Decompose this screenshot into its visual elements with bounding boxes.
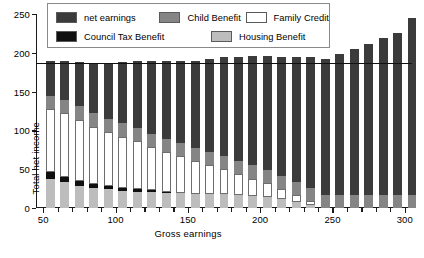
bar-segment-council-tax-benefit <box>46 172 55 179</box>
legend-item-housing-benefit: Housing Benefit <box>211 31 305 42</box>
bar-segment-family-credit <box>46 109 55 173</box>
bar-segment-family-credit <box>277 189 286 199</box>
bar-segment-net-earnings <box>162 61 171 139</box>
bar-segment-child-benefit <box>306 188 315 201</box>
bar-segment-child-benefit <box>248 165 257 178</box>
bar-segment-child-benefit <box>75 106 84 119</box>
legend-item-child-benefit: Child Benefit <box>159 12 245 23</box>
bar-segment-child-benefit <box>393 195 402 208</box>
bar-segment-net-earnings <box>191 61 200 149</box>
y-axis-title: Total net income <box>30 122 41 194</box>
x-tick-120 <box>144 208 145 212</box>
x-tick-50 <box>43 208 44 213</box>
y-tick-label-50: 50 <box>19 164 30 175</box>
x-tick-130 <box>159 208 160 212</box>
bar-200 <box>263 56 272 208</box>
bar-90 <box>104 63 113 208</box>
x-tick-300 <box>405 208 406 213</box>
bar-segment-family-credit <box>60 113 69 177</box>
bar-segment-net-earnings <box>306 57 315 187</box>
bar-120 <box>147 61 156 208</box>
bar-segment-family-credit <box>176 156 185 192</box>
bar-segment-child-benefit <box>234 161 243 174</box>
bar-segment-family-credit <box>234 174 243 195</box>
bar-segment-child-benefit <box>263 170 272 183</box>
bar-210 <box>277 57 286 208</box>
bar-50 <box>46 61 55 208</box>
y-tick-label-0: 0 <box>25 203 30 214</box>
x-tick-label-250: 250 <box>324 214 340 225</box>
x-tick-100 <box>116 208 117 213</box>
x-tick-label-100: 100 <box>107 214 123 225</box>
legend-label-housing-benefit: Housing Benefit <box>239 32 305 42</box>
bar-segment-net-earnings <box>379 38 388 195</box>
bar-segment-net-earnings <box>263 56 272 170</box>
bar-segment-housing-benefit <box>306 205 315 208</box>
bar-segment-housing-benefit <box>133 192 142 208</box>
bar-segment-family-credit <box>89 127 98 184</box>
bar-250 <box>335 54 344 208</box>
legend-swatch-child-benefit <box>159 12 180 23</box>
bar-segment-housing-benefit <box>205 194 214 208</box>
x-tick-200 <box>260 208 261 213</box>
legend-label-council-tax-benefit: Council Tax Benefit <box>84 32 164 42</box>
x-tick-label-300: 300 <box>397 214 413 225</box>
x-tick-label-50: 50 <box>38 214 49 225</box>
bar-segment-child-benefit <box>350 195 359 208</box>
bar-segment-housing-benefit <box>248 196 257 208</box>
x-tick-220 <box>289 208 290 212</box>
bar-segment-family-credit <box>147 147 156 190</box>
legend-swatch-family-credit <box>246 12 267 23</box>
bar-segment-child-benefit <box>60 100 69 113</box>
legend-label-child-benefit: Child Benefit <box>187 13 240 23</box>
bar-segment-housing-benefit <box>234 195 243 208</box>
bar-segment-family-credit <box>75 120 84 181</box>
x-tick-230 <box>304 208 305 212</box>
x-tick-60 <box>58 208 59 212</box>
bar-segment-housing-benefit <box>46 179 55 208</box>
bar-segment-net-earnings <box>75 62 84 106</box>
bar-segment-housing-benefit <box>263 197 272 208</box>
bar-segment-family-credit <box>104 132 113 186</box>
bar-segment-net-earnings <box>89 63 98 113</box>
bar-segment-net-earnings <box>147 61 156 133</box>
y-tick-label-250: 250 <box>14 9 30 20</box>
bar-110 <box>133 61 142 208</box>
bar-segment-family-credit <box>162 152 171 192</box>
bar-segment-child-benefit <box>220 156 229 169</box>
x-tick-190 <box>246 208 247 212</box>
bar-segment-housing-benefit <box>292 202 301 208</box>
bar-segment-housing-benefit <box>162 193 171 208</box>
bar-segment-child-benefit <box>133 128 142 141</box>
bar-segment-housing-benefit <box>118 191 127 208</box>
bar-260 <box>350 49 359 208</box>
bar-segment-housing-benefit <box>104 189 113 208</box>
x-tick-240 <box>318 208 319 212</box>
bar-segment-housing-benefit <box>277 199 286 208</box>
reference-line <box>36 63 412 64</box>
bar-segment-family-credit <box>220 169 229 194</box>
bar-segment-child-benefit <box>104 119 113 132</box>
legend-label-net-earnings: net earnings <box>84 13 136 23</box>
bar-segment-child-benefit <box>205 152 214 165</box>
bar-segment-net-earnings <box>277 57 286 177</box>
x-tick-110 <box>130 208 131 212</box>
bar-segment-family-credit <box>248 179 257 196</box>
chart-legend: net earnings Child Benefit Family Credit… <box>47 3 330 48</box>
bar-segment-net-earnings <box>46 61 55 95</box>
x-axis-title: Gross earnings <box>154 228 221 239</box>
bar-segment-child-benefit <box>321 195 330 208</box>
bar-segment-child-benefit <box>46 96 55 109</box>
bar-130 <box>162 61 171 208</box>
bar-segment-net-earnings <box>220 57 229 156</box>
bar-segment-net-earnings <box>248 56 257 165</box>
bar-140 <box>176 61 185 208</box>
bar-segment-housing-benefit <box>75 186 84 209</box>
bar-segment-child-benefit <box>147 134 156 147</box>
legend-item-family-credit: Family Credit <box>246 12 329 23</box>
bar-segment-net-earnings <box>118 62 127 123</box>
legend-row-2: Council Tax Benefit Housing Benefit <box>48 27 329 46</box>
bar-70 <box>75 62 84 208</box>
legend-item-council-tax-benefit: Council Tax Benefit <box>56 31 211 42</box>
x-tick-290 <box>390 208 391 212</box>
